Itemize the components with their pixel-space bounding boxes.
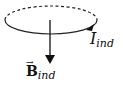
current-label: Iind	[90, 29, 114, 50]
vector-arrow-icon: →	[26, 57, 34, 67]
field-label: → B ind	[26, 63, 56, 82]
loop-front-solid	[5, 20, 97, 34]
field-label-subscript: ind	[38, 69, 56, 82]
loop-back-dashed	[5, 6, 97, 20]
current-label-subscript: ind	[96, 37, 114, 50]
field-label-vector: → B	[26, 63, 38, 79]
